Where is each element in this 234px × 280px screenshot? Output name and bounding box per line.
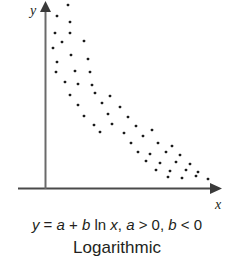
scatter-point bbox=[61, 41, 64, 44]
equation-b-lt-zero: < 0 bbox=[177, 216, 202, 233]
scatter-point bbox=[87, 58, 90, 61]
scatter-point bbox=[89, 71, 92, 74]
scatter-point bbox=[179, 154, 182, 157]
equation-ln: ln bbox=[90, 216, 110, 233]
scatter-point bbox=[123, 132, 126, 135]
scatter-point bbox=[142, 135, 145, 138]
scatter-point bbox=[149, 153, 152, 156]
scatter-point bbox=[145, 160, 148, 163]
scatter-point bbox=[91, 84, 94, 87]
scatter-point bbox=[77, 83, 80, 86]
scatter-point bbox=[69, 32, 72, 35]
y-axis-arrowhead bbox=[40, 1, 51, 12]
scatter-point bbox=[93, 124, 96, 127]
scatter-point bbox=[157, 142, 160, 145]
scatter-point bbox=[56, 61, 59, 64]
scatter-point bbox=[107, 113, 110, 116]
scatter-point bbox=[119, 106, 122, 109]
equation-a-condition: a bbox=[126, 216, 134, 233]
equation-equals: = bbox=[39, 216, 56, 233]
x-axis-arrowhead bbox=[210, 183, 222, 194]
caption-block: y = a + b ln x, a > 0, b < 0 Logarithmic bbox=[0, 215, 234, 259]
scatter-point bbox=[165, 151, 168, 154]
scatter-point bbox=[101, 102, 104, 105]
scatter-point bbox=[83, 40, 86, 43]
scatter-point bbox=[94, 92, 97, 95]
equation-b-condition: b bbox=[168, 216, 176, 233]
scatter-point bbox=[159, 162, 162, 165]
scatter-point bbox=[137, 151, 140, 154]
scatter-point bbox=[111, 123, 114, 126]
scatter-point-group bbox=[52, 4, 210, 181]
logarithmic-scatter-figure: y x y = a + b ln x, a > 0, b < 0 Logarit… bbox=[0, 0, 234, 280]
scatter-point bbox=[67, 4, 70, 7]
scatter-point bbox=[70, 54, 73, 57]
equation-a: a bbox=[57, 216, 65, 233]
scatter-point bbox=[77, 104, 80, 107]
scatter-point bbox=[99, 131, 102, 134]
y-axis-label: y bbox=[28, 3, 37, 18]
equation-comma: , bbox=[118, 216, 126, 233]
scatter-point bbox=[83, 115, 86, 118]
scatter-point bbox=[167, 176, 170, 179]
scatter-point bbox=[56, 15, 59, 18]
scatter-point bbox=[69, 94, 72, 97]
scatter-point bbox=[195, 175, 198, 178]
scatter-point bbox=[155, 169, 158, 172]
scatter-point bbox=[181, 177, 184, 180]
equation-x: x bbox=[110, 216, 118, 233]
scatter-point bbox=[109, 95, 112, 98]
scatter-point bbox=[175, 161, 178, 164]
scatter-point bbox=[74, 70, 77, 73]
equation-plus: + bbox=[65, 216, 82, 233]
equation-text: y = a + b ln x, a > 0, b < 0 bbox=[0, 215, 234, 235]
scatter-point bbox=[52, 47, 55, 50]
scatter-point bbox=[135, 125, 138, 128]
scatter-point bbox=[64, 81, 67, 84]
scatter-point bbox=[189, 163, 192, 166]
scatter-point bbox=[130, 142, 133, 145]
scatter-point bbox=[185, 169, 188, 172]
scatter-point bbox=[55, 71, 58, 74]
equation-a-gt-zero: > 0, bbox=[135, 216, 169, 233]
scatter-point bbox=[151, 129, 154, 132]
scatter-point bbox=[127, 116, 130, 119]
model-name-label: Logarithmic bbox=[0, 237, 234, 259]
x-axis-label: x bbox=[214, 197, 222, 212]
scatter-point bbox=[197, 171, 200, 174]
scatter-point bbox=[69, 21, 72, 24]
scatter-point bbox=[171, 145, 174, 148]
scatter-point bbox=[207, 178, 210, 181]
scatter-point bbox=[169, 170, 172, 173]
scatter-point bbox=[54, 32, 57, 35]
